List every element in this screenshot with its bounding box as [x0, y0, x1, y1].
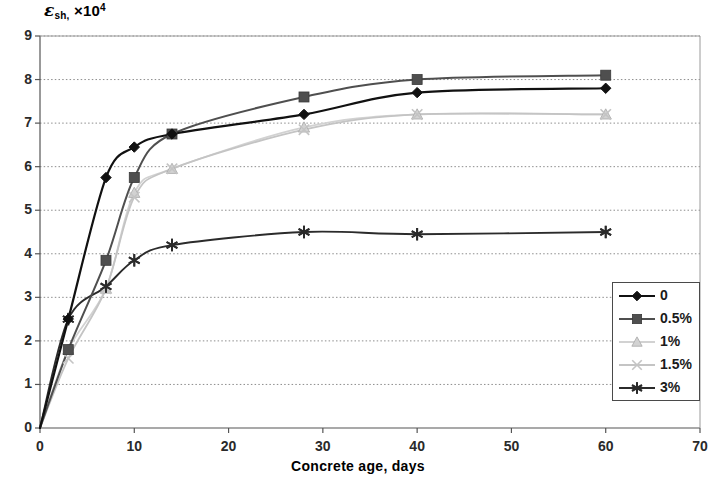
data-point-asterisk [129, 254, 140, 266]
legend-item-0-5pct[interactable]: 0.5% [660, 310, 692, 326]
series-line [40, 113, 606, 428]
x-tick-label: 30 [303, 438, 343, 454]
legend-item-1pct[interactable]: 1% [660, 333, 680, 349]
data-point-square [63, 345, 73, 355]
x-axis-label: Concrete age, days [0, 458, 716, 474]
series-line [40, 113, 606, 428]
data-point-diamond [632, 291, 642, 301]
legend-item-1-5pct[interactable]: 1.5% [660, 356, 692, 372]
y-tick-label: 9 [6, 27, 32, 43]
x-tick-label: 60 [586, 438, 626, 454]
x-tick-label: 70 [680, 438, 716, 454]
series-line [40, 75, 606, 428]
series-line [40, 88, 606, 428]
data-point-diamond [412, 87, 422, 97]
x-tick-label: 10 [114, 438, 154, 454]
legend-item-3pct[interactable]: 3% [660, 379, 680, 395]
y-tick-label: 2 [6, 332, 32, 348]
data-point-square [632, 314, 641, 323]
y-tick-label: 1 [6, 375, 32, 391]
series-lines [40, 75, 606, 428]
data-point-square [299, 92, 309, 102]
data-point-diamond [299, 109, 309, 119]
x-tick-label: 50 [491, 438, 531, 454]
y-tick-label: 8 [6, 71, 32, 87]
series-line [40, 232, 606, 428]
chart-container: εsh, ×104 0123456789 010203040506070 Con… [0, 0, 716, 486]
y-tick-label: 7 [6, 114, 32, 130]
legend: 00.5%1%1.5%3% [612, 282, 700, 401]
legend-item-0[interactable]: 0 [660, 287, 668, 303]
data-point-diamond [601, 83, 611, 93]
y-tick-label: 3 [6, 288, 32, 304]
y-tick-label: 0 [6, 419, 32, 435]
plot-area [0, 0, 716, 486]
data-point-square [101, 255, 111, 265]
data-point-square [601, 70, 611, 80]
y-tick-label: 6 [6, 158, 32, 174]
data-point-diamond [63, 314, 73, 324]
x-tick-label: 0 [20, 438, 60, 454]
data-point-square [129, 173, 139, 183]
y-tick-label: 5 [6, 201, 32, 217]
legend-swatches [613, 283, 701, 402]
y-tick-label: 4 [6, 245, 32, 261]
x-tick-label: 20 [209, 438, 249, 454]
data-point-square [412, 75, 422, 85]
x-tick-label: 40 [397, 438, 437, 454]
data-point-diamond [101, 172, 111, 182]
